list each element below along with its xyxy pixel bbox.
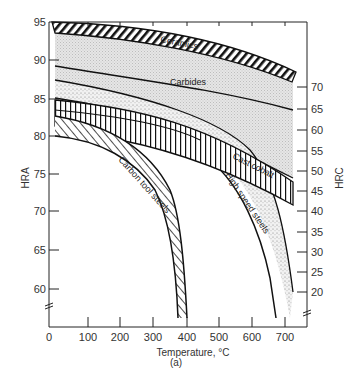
x-tick-label: 500 xyxy=(210,331,228,343)
label-carbides: Carbides xyxy=(170,77,207,87)
y-right-tick-label: 50 xyxy=(311,165,323,177)
y-tick-label: 60 xyxy=(34,283,46,295)
hardness-vs-temperature-chart: 0 100 200 300 400 500 600 700 95 90 85 8… xyxy=(0,0,357,389)
y-tick-label: 85 xyxy=(34,93,46,105)
y-right-tick-label: 35 xyxy=(311,226,323,238)
x-tick-label: 600 xyxy=(243,331,261,343)
y-axis-title-right: HRC xyxy=(334,167,345,189)
y-tick-label: 95 xyxy=(34,16,46,28)
y-right-tick-label: 25 xyxy=(311,266,323,278)
y-right-tick-label: 40 xyxy=(311,205,323,217)
y-right-tick-label: 45 xyxy=(311,185,323,197)
y-right-tick-label: 30 xyxy=(311,246,323,258)
y-tick-label: 75 xyxy=(34,168,46,180)
y-tick-label: 70 xyxy=(34,205,46,217)
x-tick-label: 0 xyxy=(46,331,52,343)
y-axis-title-left: HRA xyxy=(20,167,31,188)
x-tick-label: 200 xyxy=(111,331,129,343)
x-tick-label: 300 xyxy=(144,331,162,343)
y-right-tick-label: 65 xyxy=(311,103,323,115)
y-right-tick-label: 60 xyxy=(311,124,323,136)
x-tick-label: 700 xyxy=(276,331,294,343)
x-axis-title: Temperature, °C xyxy=(157,347,230,358)
y-tick-label: 65 xyxy=(34,244,46,256)
y-tick-label: 80 xyxy=(34,130,46,142)
x-tick-label: 100 xyxy=(79,331,97,343)
x-tick-label: 400 xyxy=(178,331,196,343)
y-right-tick-label: 20 xyxy=(311,286,323,298)
y-right-tick-label: 55 xyxy=(311,145,323,157)
y-tick-label: 90 xyxy=(34,54,46,66)
y-right-tick-label: 70 xyxy=(311,81,323,93)
chart-subtitle: (a) xyxy=(170,357,182,368)
